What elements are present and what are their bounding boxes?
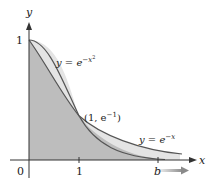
curve2-exponent: −x [165,133,175,141]
curve1-base: y = e [55,57,82,68]
curve-exp-neg-x-squared-label: y = e−x2 [55,54,95,68]
point-close: ) [117,112,121,123]
intersection-label: (1, e−1) [84,111,121,123]
b-direction-arrow-icon [181,167,189,175]
x-axis-arrow-icon [189,157,197,163]
curve2-base: y = e [138,134,165,145]
x-axis-label: x [199,154,206,167]
curve-exp-neg-x-label: y = e−x [138,133,175,145]
y-axis-label: y [25,6,33,19]
x-tick-1-label: 1 [76,165,83,178]
origin-label: 0 [17,165,24,178]
point-open: (1, e [84,112,107,123]
point-exponent: −1 [107,111,117,119]
diagram: y x 0 1 1 b y = e−x2 (1, e−1) y = e−x [0,0,219,186]
y-tick-1-label: 1 [16,34,23,47]
b-label: b [154,165,161,178]
curve1-exponent-power: 2 [92,54,95,60]
y-axis-arrow-icon [26,22,32,30]
curve1-exponent: −x [82,56,92,64]
